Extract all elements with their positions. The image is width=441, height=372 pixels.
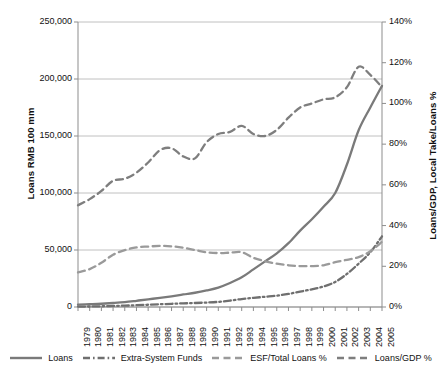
legend-swatch-icon [82,353,116,363]
legend-item-2[interactable]: ESF/Total Loans % [211,353,327,363]
legend-label: Loans [48,353,73,363]
plot-area [0,0,441,372]
legend-item-0[interactable]: Loans [9,353,73,363]
legend-item-3[interactable]: Loans/GDP % [336,353,432,363]
legend-label: Loans/GDP % [375,353,432,363]
legend-swatch-icon [9,353,43,363]
chart-legend: LoansExtra-System FundsESF/Total Loans %… [0,348,441,368]
series-line-1 [78,236,382,306]
legend-swatch-icon [336,353,370,363]
legend-item-1[interactable]: Extra-System Funds [82,353,203,363]
chart-container: Loans RMB 100 mm Loans/GDP, Local Take/L… [0,0,441,372]
legend-swatch-icon [211,353,245,363]
series-line-0 [78,86,382,305]
series-line-2 [78,242,382,273]
legend-label: Extra-System Funds [121,353,203,363]
legend-label: ESF/Total Loans % [250,353,327,363]
